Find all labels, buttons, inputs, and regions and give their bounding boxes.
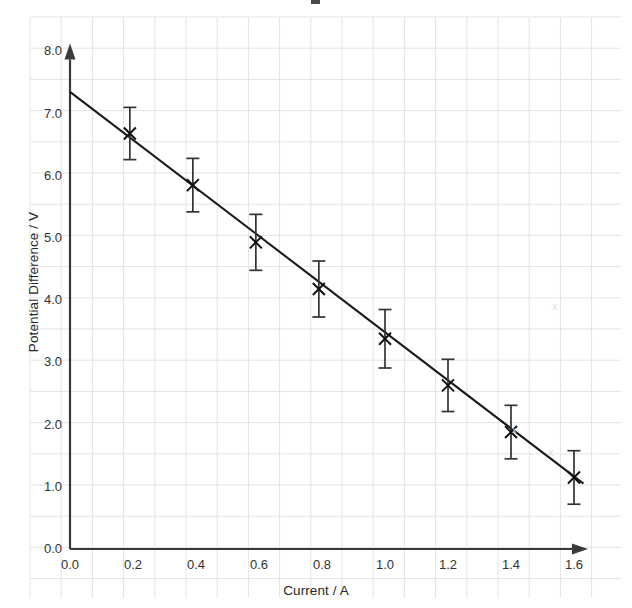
- y-tick-label: 0.0: [22, 541, 62, 556]
- y-tick-label: 1.0: [22, 479, 62, 494]
- y-tick-label: 3.0: [22, 354, 62, 369]
- y-tick-label: 2.0: [22, 417, 62, 432]
- chart-figure: Potential Difference / V Current / A 0.0…: [0, 0, 632, 608]
- grid-lines: [30, 17, 621, 598]
- x-tick-label: 1.4: [489, 557, 533, 572]
- x-tick-label: 0.6: [237, 557, 281, 572]
- x-axis-title: Current / A: [0, 583, 632, 598]
- y-tick-label: 7.0: [22, 106, 62, 121]
- x-tick-label: 0.8: [300, 557, 344, 572]
- y-tick-label: 8.0: [22, 43, 62, 58]
- best-fit-line: [70, 92, 583, 484]
- x-tick-label: 1.0: [363, 557, 407, 572]
- y-tick-label: 4.0: [22, 292, 62, 307]
- x-tick-label: 1.6: [552, 557, 596, 572]
- axis-lines: [65, 43, 589, 554]
- x-tick-label: 1.2: [426, 557, 470, 572]
- x-tick-label: 0.0: [48, 557, 92, 572]
- y-tick-label: 5.0: [22, 230, 62, 245]
- x-tick-label: 0.2: [111, 557, 155, 572]
- x-tick-label: 0.4: [174, 557, 218, 572]
- y-tick-label: 6.0: [22, 168, 62, 183]
- chart-plot-area: [0, 0, 632, 608]
